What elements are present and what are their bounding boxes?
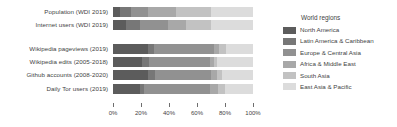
legend-items: North AmericaLatin America & CaribbeanEu…: [283, 25, 395, 92]
legend-swatch-icon: [283, 27, 296, 34]
legend-swatch-icon: [283, 83, 296, 90]
category-label: Population (WDI 2019): [0, 8, 108, 16]
legend-swatch-icon: [283, 72, 296, 79]
legend-label: Latin America & Caribbean: [300, 37, 374, 45]
stacked-bar: [113, 84, 253, 94]
bar-segment: [148, 70, 155, 80]
bar-segment: [155, 70, 211, 80]
legend-item: Latin America & Caribbean: [283, 36, 395, 46]
x-axis-tick-label: 80%: [219, 109, 231, 117]
x-axis-tick-label: 0%: [109, 109, 118, 117]
bar-segment: [219, 44, 226, 54]
category-label: Github accounts (2008-2020): [0, 71, 108, 79]
bar-segment: [113, 7, 120, 17]
category-label: Wikipedia edits (2005-2018): [0, 58, 108, 66]
bar-segment: [126, 20, 140, 30]
x-axis-tick: [141, 103, 142, 107]
legend-item: North America: [283, 25, 395, 35]
bar-segment: [120, 7, 131, 17]
bar-segment: [218, 84, 225, 94]
legend-label: Africa & Middle East: [300, 60, 356, 68]
bar-segment: [154, 44, 214, 54]
legend-label: North America: [300, 26, 339, 34]
legend-item: East Asia & Pacific: [283, 82, 395, 92]
bar-segment: [113, 70, 148, 80]
category-label: Wikipedia pageviews (2019): [0, 45, 108, 53]
category-axis-labels: Population (WDI 2019)Internet users (WDI…: [0, 0, 108, 127]
bar-segment: [144, 84, 210, 94]
bar-segment: [113, 84, 140, 94]
bar-segment: [226, 44, 253, 54]
bar-segment: [113, 20, 126, 30]
x-axis-tick: [113, 103, 114, 107]
stacked-bar: [113, 7, 253, 17]
bar-segment: [222, 70, 253, 80]
x-axis-tick-label: 60%: [191, 109, 203, 117]
stacked-bar: [113, 20, 253, 30]
bar-segment: [211, 7, 253, 17]
legend-title: World regions: [301, 13, 395, 22]
legend-item: South Asia: [283, 71, 395, 81]
x-axis: 0%20%40%60%80%100%: [113, 103, 253, 127]
x-axis-tick-label: 40%: [163, 109, 175, 117]
x-axis-tick: [225, 103, 226, 107]
x-axis-tick: [253, 103, 254, 107]
legend-label: South Asia: [300, 72, 330, 80]
x-axis-tick-label: 20%: [135, 109, 147, 117]
bar-segment: [186, 20, 211, 30]
stacked-bar: [113, 70, 253, 80]
legend-swatch-icon: [283, 49, 296, 56]
legend-swatch-icon: [283, 61, 296, 68]
bar-segment: [148, 7, 176, 17]
x-axis-tick-label: 100%: [245, 109, 260, 117]
bar-segment: [140, 20, 168, 30]
bar-segment: [142, 57, 149, 67]
legend-item: Europe & Central Asia: [283, 48, 395, 58]
bar-segment: [113, 57, 142, 67]
bar-segment: [113, 44, 148, 54]
bar-segment: [176, 7, 211, 17]
legend-swatch-icon: [283, 38, 296, 45]
x-axis-tick: [197, 103, 198, 107]
bar-segment: [149, 57, 209, 67]
stacked-bar: [113, 57, 253, 67]
legend-label: East Asia & Pacific: [300, 83, 352, 91]
stacked-bar-chart: Population (WDI 2019)Internet users (WDI…: [0, 0, 397, 127]
stacked-bar: [113, 44, 253, 54]
legend-label: Europe & Central Asia: [300, 49, 361, 57]
x-axis-tick: [169, 103, 170, 107]
bar-segment: [217, 57, 253, 67]
legend: World regions North AmericaLatin America…: [283, 13, 395, 93]
category-label: Daily Tor users (2019): [0, 85, 108, 93]
bar-segment: [168, 20, 186, 30]
bar-segment: [225, 84, 253, 94]
bar-segment: [131, 7, 148, 17]
legend-item: Africa & Middle East: [283, 59, 395, 69]
bar-segment: [210, 84, 218, 94]
category-label: Internet users (WDI 2019): [0, 21, 108, 29]
bar-segment: [211, 20, 253, 30]
